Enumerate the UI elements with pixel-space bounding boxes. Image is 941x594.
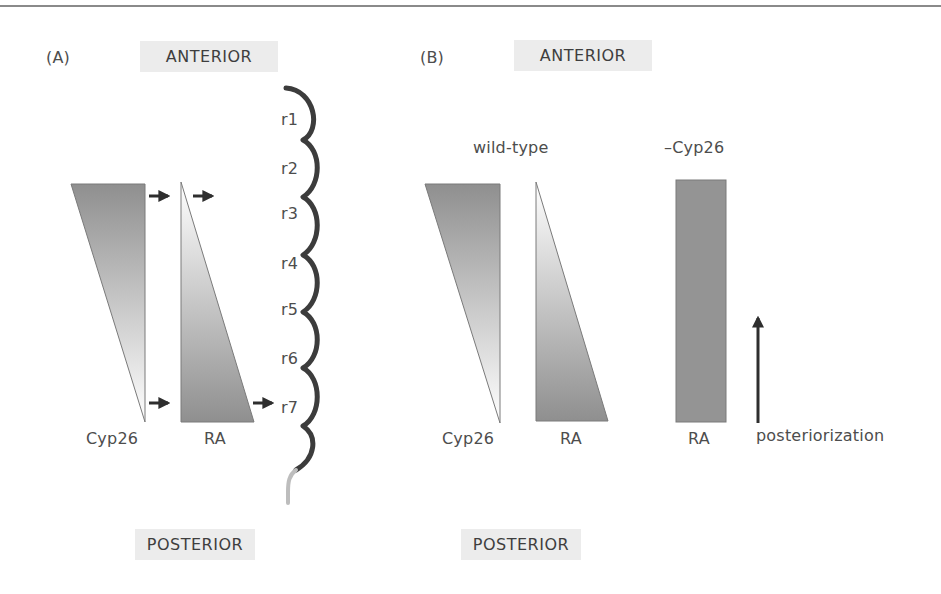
rhombomere-r2-label: r2 (281, 160, 298, 178)
rhombomere-r4-label: r4 (281, 255, 298, 273)
rhombomere-r3-label: r3 (281, 205, 298, 223)
rhombomere-r6-label: r6 (281, 350, 298, 368)
panel-a-label: (A) (46, 49, 70, 67)
mutant-cyp26-title: –Cyp26 (664, 139, 724, 157)
spinal-cord-line (288, 470, 296, 503)
panel-a-posterior-label: POSTERIOR (135, 529, 255, 560)
panel-a-anterior-label: ANTERIOR (140, 41, 278, 72)
panel-a-ra-gradient (181, 182, 254, 422)
panel-a-ra-label: RA (204, 430, 226, 448)
panel-b-ra-label: RA (560, 430, 582, 448)
panel-b-mutant-ra-uniform (676, 180, 726, 422)
panel-b-mutant-ra-label: RA (688, 430, 710, 448)
diagram-canvas (0, 0, 941, 594)
rhombomere-r5-label: r5 (281, 301, 298, 319)
panel-a-cyp26-gradient (71, 184, 145, 422)
rhombomere-r1-label: r1 (281, 111, 298, 129)
rhombomere-r7-label: r7 (281, 399, 298, 417)
posteriorization-label: posteriorization (756, 427, 884, 445)
panel-a-cyp26-label: Cyp26 (86, 430, 138, 448)
wildtype-title: wild-type (473, 139, 548, 157)
panel-b-label: (B) (420, 49, 444, 67)
panel-b-anterior-label: ANTERIOR (514, 40, 652, 71)
panel-b-posterior-label: POSTERIOR (461, 529, 581, 560)
panel-b-wildtype-ra-gradient (536, 182, 608, 421)
panel-b-wildtype-cyp26-gradient (425, 184, 500, 423)
panel-b-cyp26-label: Cyp26 (442, 430, 494, 448)
